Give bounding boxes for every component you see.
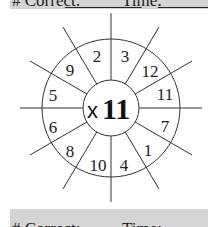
wheel-number: 12 bbox=[142, 62, 159, 81]
multiplication-wheel: x 11 3 12 11 7 1 4 10 8 6 5 9 2 bbox=[0, 0, 215, 227]
wheel-number: 8 bbox=[66, 142, 75, 161]
wheel-number: 6 bbox=[49, 118, 58, 137]
operator-symbol: x bbox=[87, 98, 98, 123]
time-label: Time: bbox=[122, 220, 162, 227]
wheel-number: 2 bbox=[93, 47, 102, 66]
wheel-number: 7 bbox=[161, 117, 170, 136]
wheel-number: 5 bbox=[49, 86, 58, 105]
wheel-number: 4 bbox=[120, 156, 129, 175]
wheel-number: 11 bbox=[157, 85, 173, 104]
multiplier-value: 11 bbox=[102, 92, 130, 125]
footer-bar: # Correct: _________ Time: _________ bbox=[10, 209, 208, 227]
wheel-number: 9 bbox=[66, 61, 75, 80]
wheel-number: 3 bbox=[121, 47, 130, 66]
wheel-number: 1 bbox=[144, 141, 153, 160]
time-blank: _________ bbox=[158, 220, 208, 227]
wheel-number: 10 bbox=[90, 156, 107, 175]
